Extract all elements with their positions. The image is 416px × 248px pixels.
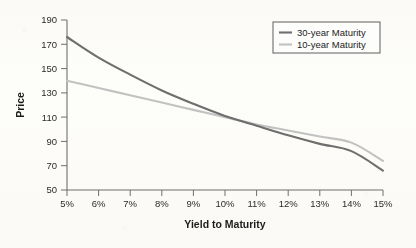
x-tick-label-7: 7% [123,198,137,209]
chart-figure: 50 70 90 110 130 150 170 190 5% 6% 7% 8%… [0,0,416,248]
x-tick-label-10: 10% [215,198,235,209]
x-tick-label-6: 6% [92,198,106,209]
x-tick-label-11: 11% [247,198,266,209]
y-axis-ticks [61,20,67,190]
x-tick-label-15: 15% [373,198,393,209]
y-tick-label-190: 190 [41,14,57,25]
chart-legend: 30-year Maturity 10-year Maturity [273,22,380,53]
x-tick-label-13: 13% [310,198,330,209]
y-tick-label-50: 50 [46,184,57,195]
x-tick-label-14: 14% [342,198,362,209]
x-tick-label-8: 8% [155,198,169,209]
y-tick-label-150: 150 [41,63,57,74]
legend-label-30-year: 30-year Maturity [297,27,366,38]
y-tick-label-170: 170 [41,39,57,50]
y-tick-label-110: 110 [42,112,57,123]
x-tick-label-5: 5% [60,198,74,209]
x-axis-ticks [67,190,383,196]
x-tick-label-9: 9% [187,198,201,209]
x-axis-title: Yield to Maturity [184,218,265,230]
y-tick-label-90: 90 [46,136,57,147]
chart-canvas: 50 70 90 110 130 150 170 190 5% 6% 7% 8%… [0,0,416,248]
series-line-10-year [67,37,383,171]
y-tick-label-70: 70 [46,160,57,171]
legend-label-10-year: 10-year Maturity [297,39,366,50]
series-line-30-year [67,81,383,161]
y-axis-title: Price [14,92,26,118]
x-tick-label-12: 12% [279,198,299,209]
y-tick-label-130: 130 [41,87,57,98]
